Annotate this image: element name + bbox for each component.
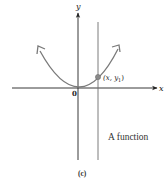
point-label-prefix: (x, y <box>103 74 119 82</box>
point-label: (x, y1) <box>103 74 124 83</box>
point-label-suffix: ) <box>121 74 124 82</box>
figure-caption: (c) <box>78 169 87 178</box>
x-axis-label: x <box>159 84 164 93</box>
intersection-point <box>95 74 100 79</box>
curve-arrow-right-icon <box>112 45 120 52</box>
origin-label: 0 <box>72 89 77 98</box>
function-diagram: y x 0 (x, y1) A function (c) <box>0 0 165 186</box>
y-axis-label: y <box>75 2 81 11</box>
function-annotation: A function <box>108 132 149 142</box>
